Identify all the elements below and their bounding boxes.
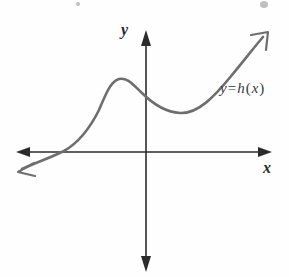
y-axis-label: y <box>121 22 128 38</box>
function-curve <box>22 37 263 169</box>
curve-label-close-paren: ) <box>258 80 265 96</box>
x-axis-right-arrowhead <box>258 147 272 157</box>
y-axis-bottom-arrowhead <box>141 256 151 272</box>
graph-canvas <box>0 0 289 277</box>
y-axis-top-arrowhead <box>141 30 151 46</box>
y-axis <box>141 30 151 272</box>
curve-label-function-name: h <box>237 80 245 96</box>
curve-equation-label: y=h(x) <box>220 81 265 96</box>
function-curve-group <box>18 32 268 176</box>
curve-label-y: y <box>220 80 227 96</box>
curve-label-open-paren: ( <box>245 80 252 96</box>
curve-label-equals: = <box>227 80 237 96</box>
x-axis-left-arrowhead <box>16 147 30 157</box>
graph-figure: y x y=h(x) <box>0 0 289 277</box>
x-axis-label: x <box>263 160 271 176</box>
curve-left-arrowhead <box>18 163 35 176</box>
